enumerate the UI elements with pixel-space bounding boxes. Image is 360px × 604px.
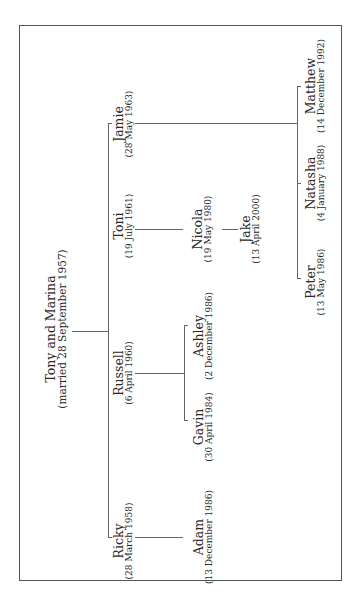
node-root: Tony and Marina (married 28 September 19…: [44, 249, 68, 408]
node-gavin: Gavin (30 April 1984): [192, 392, 215, 461]
node-date: (14 December 1992): [317, 39, 326, 133]
node-ashley: Ashley (2 December 1986): [192, 292, 215, 380]
connector-russell-children: [184, 325, 185, 421]
node-date: (4 January 1988): [317, 145, 326, 222]
tick-natasha: [297, 183, 301, 184]
node-peter: Peter (13 May 1986): [304, 249, 327, 316]
node-date: (30 April 1984): [205, 392, 214, 461]
node-date: (28 March 1958): [125, 503, 134, 580]
node-date: (6 April 1960): [125, 341, 134, 405]
connector-nicola: [222, 229, 238, 230]
node-date: (2 December 1986): [205, 292, 214, 380]
node-date: (13 May 1986): [317, 249, 326, 316]
node-russell: Russell (6 April 1960): [112, 341, 135, 405]
node-toni: Toni (19 July 1961): [112, 194, 135, 258]
node-jake: Jake (13 April 2000): [239, 194, 262, 263]
node-jamie: Jamie (28 May 1963): [112, 91, 135, 158]
node-date: (19 May 1980): [204, 196, 213, 263]
node-date: (28 May 1963): [125, 91, 134, 158]
node-date: (13 December 1986): [205, 490, 214, 584]
node-date: (13 April 2000): [252, 194, 261, 263]
connector-trunk: [108, 123, 109, 538]
tick-ashley: [184, 325, 188, 326]
node-ricky: Ricky (28 March 1958): [112, 503, 135, 580]
connector-toni: [135, 229, 183, 230]
tick-gavin: [184, 420, 188, 421]
connector-russell: [135, 373, 184, 374]
node-natasha: Natasha (4 January 1988): [304, 145, 327, 222]
connector-root: [72, 331, 108, 332]
tick-peter: [297, 278, 301, 279]
node-date: (married 28 September 1957): [57, 249, 68, 408]
connector-ricky: [135, 537, 183, 538]
connector-jamie: [135, 123, 297, 124]
node-adam: Adam (13 December 1986): [192, 490, 215, 584]
node-date: (19 July 1961): [125, 194, 134, 258]
node-matthew: Matthew (14 December 1992): [304, 39, 327, 133]
node-nicola: Nicola (19 May 1980): [191, 196, 214, 263]
tick-matthew: [297, 86, 301, 87]
